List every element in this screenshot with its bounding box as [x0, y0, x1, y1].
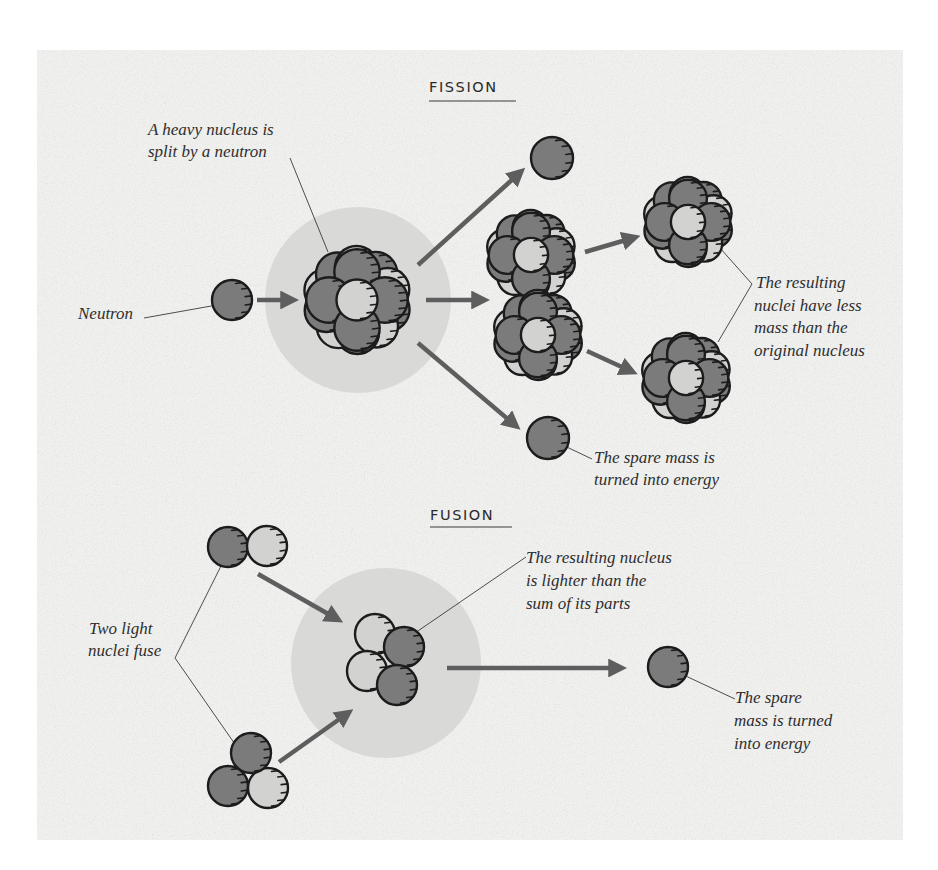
fused-nucleus-particle	[384, 627, 424, 667]
label-neutron: Neutron	[77, 304, 133, 323]
neutron-core	[514, 238, 548, 272]
fragment-nucleus	[644, 177, 732, 267]
neutron-core	[671, 205, 705, 239]
heavy-nucleus	[304, 246, 409, 354]
neutron-core	[521, 318, 555, 352]
incoming-neutron	[212, 280, 252, 320]
fragment-nucleus	[487, 210, 575, 300]
neutron-core	[336, 279, 377, 320]
fragment-nucleus	[494, 290, 582, 380]
fragment-nucleus	[642, 333, 730, 423]
fission-fusion-diagram: FISSION A heavy nucleus is split by a ne…	[0, 0, 938, 870]
spare-neutron	[648, 647, 688, 687]
fused-nucleus-particle	[377, 665, 417, 705]
neutron-core	[669, 361, 703, 395]
light-nucleus-pair-particle	[208, 527, 248, 567]
light-nucleus-triplet-particle	[231, 733, 271, 773]
light-nucleus-triplet-particle	[248, 768, 288, 808]
fission-heading: FISSION	[429, 79, 498, 95]
light-nucleus-pair-particle	[247, 526, 287, 566]
fusion-heading: FUSION	[430, 507, 494, 523]
spare-neutron	[531, 137, 573, 179]
spare-neutron	[527, 417, 569, 459]
